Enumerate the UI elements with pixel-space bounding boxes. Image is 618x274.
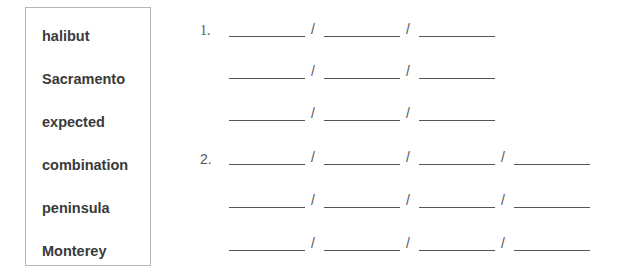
separator-slash: /: [406, 21, 410, 37]
exercise-2-number: 2.: [200, 151, 212, 167]
answer-blank[interactable]: [324, 164, 400, 165]
separator-slash: /: [406, 105, 410, 121]
answer-blank[interactable]: [419, 207, 495, 208]
word-box: halibut Sacramento expected combination …: [25, 7, 151, 266]
answer-blank[interactable]: [229, 164, 305, 165]
answer-blank[interactable]: [324, 36, 400, 37]
answer-blank[interactable]: [229, 120, 305, 121]
answer-blank[interactable]: [324, 78, 400, 79]
answer-blank[interactable]: [514, 164, 590, 165]
separator-slash: /: [501, 192, 505, 208]
answer-blank[interactable]: [419, 120, 495, 121]
answer-blank[interactable]: [419, 250, 495, 251]
separator-slash: /: [311, 192, 315, 208]
separator-slash: /: [406, 63, 410, 79]
answer-blank[interactable]: [514, 207, 590, 208]
answer-blank[interactable]: [229, 78, 305, 79]
separator-slash: /: [501, 235, 505, 251]
word-halibut: halibut: [42, 28, 90, 44]
separator-slash: /: [311, 105, 315, 121]
separator-slash: /: [311, 235, 315, 251]
answer-blank[interactable]: [229, 36, 305, 37]
word-monterey: Monterey: [42, 243, 106, 259]
answer-blank[interactable]: [514, 250, 590, 251]
answer-blank[interactable]: [419, 78, 495, 79]
separator-slash: /: [501, 149, 505, 165]
separator-slash: /: [406, 235, 410, 251]
separator-slash: /: [406, 149, 410, 165]
word-sacramento: Sacramento: [42, 71, 125, 87]
word-expected: expected: [42, 114, 105, 130]
separator-slash: /: [311, 149, 315, 165]
answer-blank[interactable]: [324, 250, 400, 251]
separator-slash: /: [406, 192, 410, 208]
word-peninsula: peninsula: [42, 200, 110, 216]
word-combination: combination: [42, 157, 128, 173]
answer-blank[interactable]: [324, 120, 400, 121]
answer-blank[interactable]: [419, 36, 495, 37]
answer-blank[interactable]: [229, 207, 305, 208]
answer-blank[interactable]: [419, 164, 495, 165]
exercise-1-number: 1.: [200, 23, 211, 39]
answer-blank[interactable]: [229, 250, 305, 251]
separator-slash: /: [311, 63, 315, 79]
answer-blank[interactable]: [324, 207, 400, 208]
separator-slash: /: [311, 21, 315, 37]
